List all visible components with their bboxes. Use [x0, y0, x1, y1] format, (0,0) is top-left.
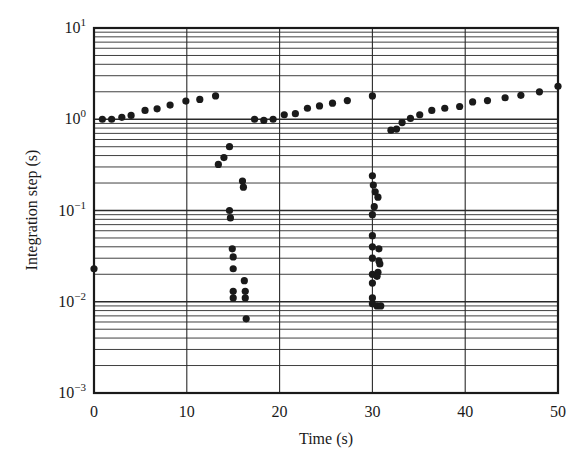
y-axis-label: Integration step (s): [23, 150, 41, 271]
data-point: [242, 294, 249, 301]
data-point: [99, 116, 106, 123]
data-point: [108, 116, 115, 123]
x-axis-label: Time (s): [299, 430, 353, 448]
data-point: [536, 88, 543, 95]
data-point: [375, 245, 382, 252]
data-point: [373, 273, 380, 280]
data-point: [240, 184, 247, 191]
data-point: [393, 125, 400, 132]
x-tick-label: 40: [457, 403, 473, 420]
data-point: [370, 181, 377, 188]
x-tick-label: 50: [550, 403, 566, 420]
data-point: [369, 172, 376, 179]
data-point: [226, 207, 233, 214]
data-point: [141, 107, 148, 114]
x-tick-label: 30: [364, 403, 380, 420]
data-point: [166, 101, 173, 108]
data-point: [118, 114, 125, 121]
data-point: [212, 92, 219, 99]
data-point: [374, 194, 381, 201]
data-point: [376, 260, 383, 267]
data-point: [398, 119, 405, 126]
data-point: [377, 302, 384, 309]
data-point: [304, 105, 311, 112]
data-point: [369, 211, 376, 218]
y-tick-label: 10−1: [58, 199, 86, 219]
data-point: [369, 243, 376, 250]
data-point: [260, 117, 267, 124]
data-point: [441, 105, 448, 112]
data-point: [230, 294, 237, 301]
data-point: [369, 280, 376, 287]
data-point: [329, 100, 336, 107]
data-point: [502, 94, 509, 101]
data-point: [369, 255, 376, 262]
data-point: [220, 154, 227, 161]
x-tick-label: 0: [90, 403, 98, 420]
scatter-chart: 01020304050 10110010−110−210−3 Time (s) …: [0, 0, 585, 472]
data-point: [242, 288, 249, 295]
data-point: [227, 214, 234, 221]
data-point: [407, 115, 414, 122]
y-tick-label: 100: [65, 107, 87, 127]
y-tick-label: 10−3: [58, 381, 86, 401]
data-point: [215, 161, 222, 168]
data-point: [241, 277, 248, 284]
x-tick-label: 20: [272, 403, 288, 420]
grid-lines: [94, 28, 558, 393]
data-point: [371, 203, 378, 210]
data-point: [229, 245, 236, 252]
y-tick-label: 10−2: [58, 290, 86, 310]
data-point: [517, 92, 524, 99]
data-point: [270, 116, 277, 123]
data-point: [230, 265, 237, 272]
data-point: [239, 177, 246, 184]
data-point: [230, 253, 237, 260]
data-point: [154, 105, 161, 112]
x-axis-ticks: 01020304050: [90, 403, 566, 420]
data-point: [182, 98, 189, 105]
data-point: [469, 98, 476, 105]
data-point: [292, 110, 299, 117]
data-point: [251, 116, 258, 123]
data-point: [230, 288, 237, 295]
data-point: [243, 315, 250, 322]
data-point: [416, 111, 423, 118]
data-point: [316, 102, 323, 109]
y-axis-ticks: 10110010−110−210−3: [58, 16, 86, 401]
x-tick-label: 10: [179, 403, 195, 420]
data-point: [196, 96, 203, 103]
data-point: [369, 232, 376, 239]
data-point: [456, 103, 463, 110]
data-point: [344, 97, 351, 104]
data-point: [484, 97, 491, 104]
data-point: [281, 111, 288, 118]
data-point: [128, 112, 135, 119]
data-point: [369, 92, 376, 99]
data-point: [428, 107, 435, 114]
data-point: [226, 143, 233, 150]
y-tick-label: 101: [65, 16, 87, 36]
